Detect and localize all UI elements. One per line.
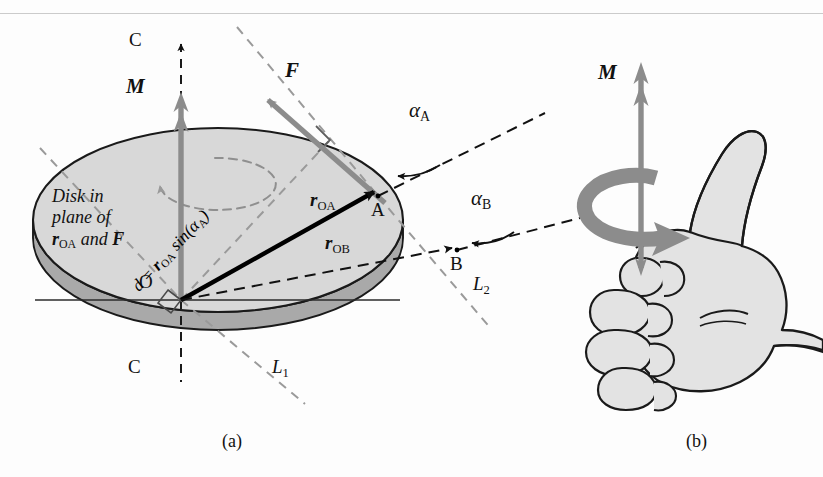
line-label-l2: L2 [473,274,490,296]
rotation-arrow-hand [584,175,690,256]
point-b-marker [455,248,460,253]
l1-subscript: 1 [283,366,289,380]
force-vector-label-f: F [285,60,299,81]
angle-a-reference-line [378,113,545,196]
moment-vector-label-m: M [126,76,145,97]
figure-root: C M F αA αB rOA rOB A B O C L1 L2 d = rO… [0,0,823,477]
note-r-subscript: OA [59,238,76,252]
note-line-2: plane of [52,207,124,228]
angle-label-alpha-b: αB [471,188,491,212]
angle-b-subscript: B [482,197,491,212]
angle-arc-a [398,165,440,176]
angle-arc-b [472,232,514,243]
caption-panel-b: (b) [686,432,707,450]
angle-label-alpha-a: αA [409,100,430,124]
angle-a-symbol: α [409,98,420,122]
r-ob-subscript: OB [332,242,349,256]
point-label-b: B [450,254,463,273]
angle-a-subscript: A [420,109,430,124]
line-label-l1: L1 [272,357,289,379]
axis-label-c-top: C [129,30,142,49]
angle-b-reference-line [457,218,580,250]
vector-label-r-ob: rOB [325,233,350,255]
note-line-1: Disk in [52,186,124,207]
vector-label-r-oa: rOA [310,190,336,212]
disk-plane-note: Disk in plane of rOA and F [52,186,124,252]
point-a-marker [376,194,381,199]
l2-symbol: L [473,273,484,294]
moment-vector-label-m-hand: M [598,62,617,83]
point-label-a: A [371,200,385,219]
note-f-symbol: F [112,229,124,249]
l2-subscript: 2 [484,283,490,297]
r-oa-subscript: OA [317,199,335,213]
note-r-symbol: r [52,229,59,249]
l1-symbol: L [272,356,283,377]
note-line-3: rOA and F [52,229,124,251]
note-conjunction: and [76,229,112,249]
caption-panel-a: (a) [222,432,242,450]
axis-label-c-bottom: C [128,357,141,376]
angle-b-symbol: α [471,186,482,210]
